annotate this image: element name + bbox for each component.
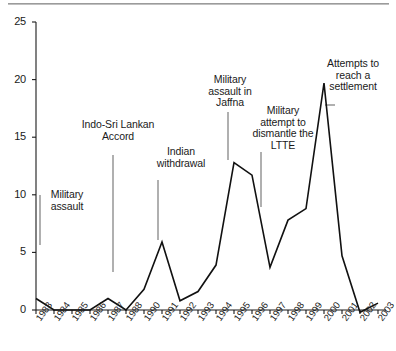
annotation-text-2: Indo-Sri Lankan Accord	[62, 119, 174, 142]
y-tick-marks	[32, 22, 36, 310]
y-tick-label: 5	[6, 246, 26, 257]
y-tick-label: 10	[6, 189, 26, 200]
annotation-text-3: Indian withdrawal	[144, 146, 218, 169]
annotation-text-6: Attempts to reach a settlement	[316, 58, 390, 93]
annotation-text-4: Military assault in Jaffna	[194, 74, 266, 109]
y-tick-label: 20	[6, 74, 26, 85]
y-tick-label: 15	[6, 131, 26, 142]
y-tick-label: 0	[6, 304, 26, 315]
annotation-text-5: Military attempt to dismantle the LTTE	[246, 105, 320, 151]
y-tick-label: 25	[6, 16, 26, 27]
annotation-text-1: Military assault	[36, 189, 98, 212]
